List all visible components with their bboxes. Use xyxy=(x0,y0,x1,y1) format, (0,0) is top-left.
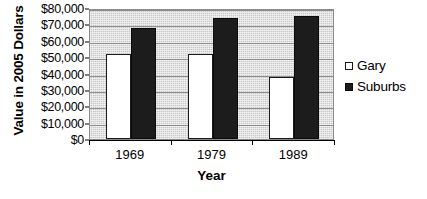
bar-chart: Value in 2005 Dollars $0$10,000$20,000$3… xyxy=(0,0,427,199)
x-axis-tick-mark xyxy=(89,140,90,145)
legend-entry-gary[interactable]: Gary xyxy=(345,57,425,74)
y-axis-tick-label: $0 xyxy=(22,134,84,147)
y-axis-tick-mark xyxy=(85,107,89,108)
x-axis-line xyxy=(89,140,335,141)
y-axis-tick-label: $70,000 xyxy=(22,19,84,32)
y-axis-tick-mark xyxy=(85,90,89,91)
x-axis-tick-mark xyxy=(171,140,172,145)
x-axis-tick-mark xyxy=(334,140,335,145)
bar-gary-1979 xyxy=(188,54,213,139)
x-axis-tick-label: 1979 xyxy=(197,147,226,162)
y-axis-tick-label: $40,000 xyxy=(22,68,84,81)
y-axis-tick-mark xyxy=(85,74,89,75)
y-axis-tick-label: $30,000 xyxy=(22,85,84,98)
bar-suburbs-1989 xyxy=(294,16,319,139)
legend-entry-suburbs[interactable]: Suburbs xyxy=(345,78,425,95)
y-axis-tick-mark xyxy=(85,9,89,10)
legend-label: Gary xyxy=(357,58,385,73)
bar-suburbs-1969 xyxy=(131,28,156,139)
bars-layer xyxy=(90,10,333,139)
open-square-icon xyxy=(345,62,353,70)
legend-label: Suburbs xyxy=(357,79,406,94)
x-axis-tick-label: 1989 xyxy=(279,147,308,162)
filled-square-icon xyxy=(345,83,353,91)
legend: GarySuburbs xyxy=(345,57,425,99)
y-axis-tick-mark xyxy=(85,25,89,26)
y-axis-tick-mark xyxy=(85,58,89,59)
x-axis-title: Year xyxy=(89,168,334,183)
x-axis-tick-labels: 196919791989 xyxy=(89,147,334,165)
y-axis-tick-label: $50,000 xyxy=(22,52,84,65)
x-axis-tick-mark xyxy=(252,140,253,145)
bar-suburbs-1979 xyxy=(213,18,238,139)
plot-area xyxy=(89,9,334,140)
x-axis-tick-label: 1969 xyxy=(115,147,144,162)
y-axis-tick-mark xyxy=(85,123,89,124)
y-axis-tick-mark xyxy=(85,41,89,42)
bar-gary-1969 xyxy=(106,54,131,139)
bar-gary-1989 xyxy=(269,77,294,139)
y-axis-tick-labels: $0$10,000$20,000$30,000$40,000$50,000$60… xyxy=(22,9,84,140)
y-axis-tick-label: $10,000 xyxy=(22,117,84,130)
y-axis-tick-label: $60,000 xyxy=(22,36,84,49)
y-axis-tick-label: $20,000 xyxy=(22,101,84,114)
y-axis-tick-label: $80,000 xyxy=(22,3,84,16)
